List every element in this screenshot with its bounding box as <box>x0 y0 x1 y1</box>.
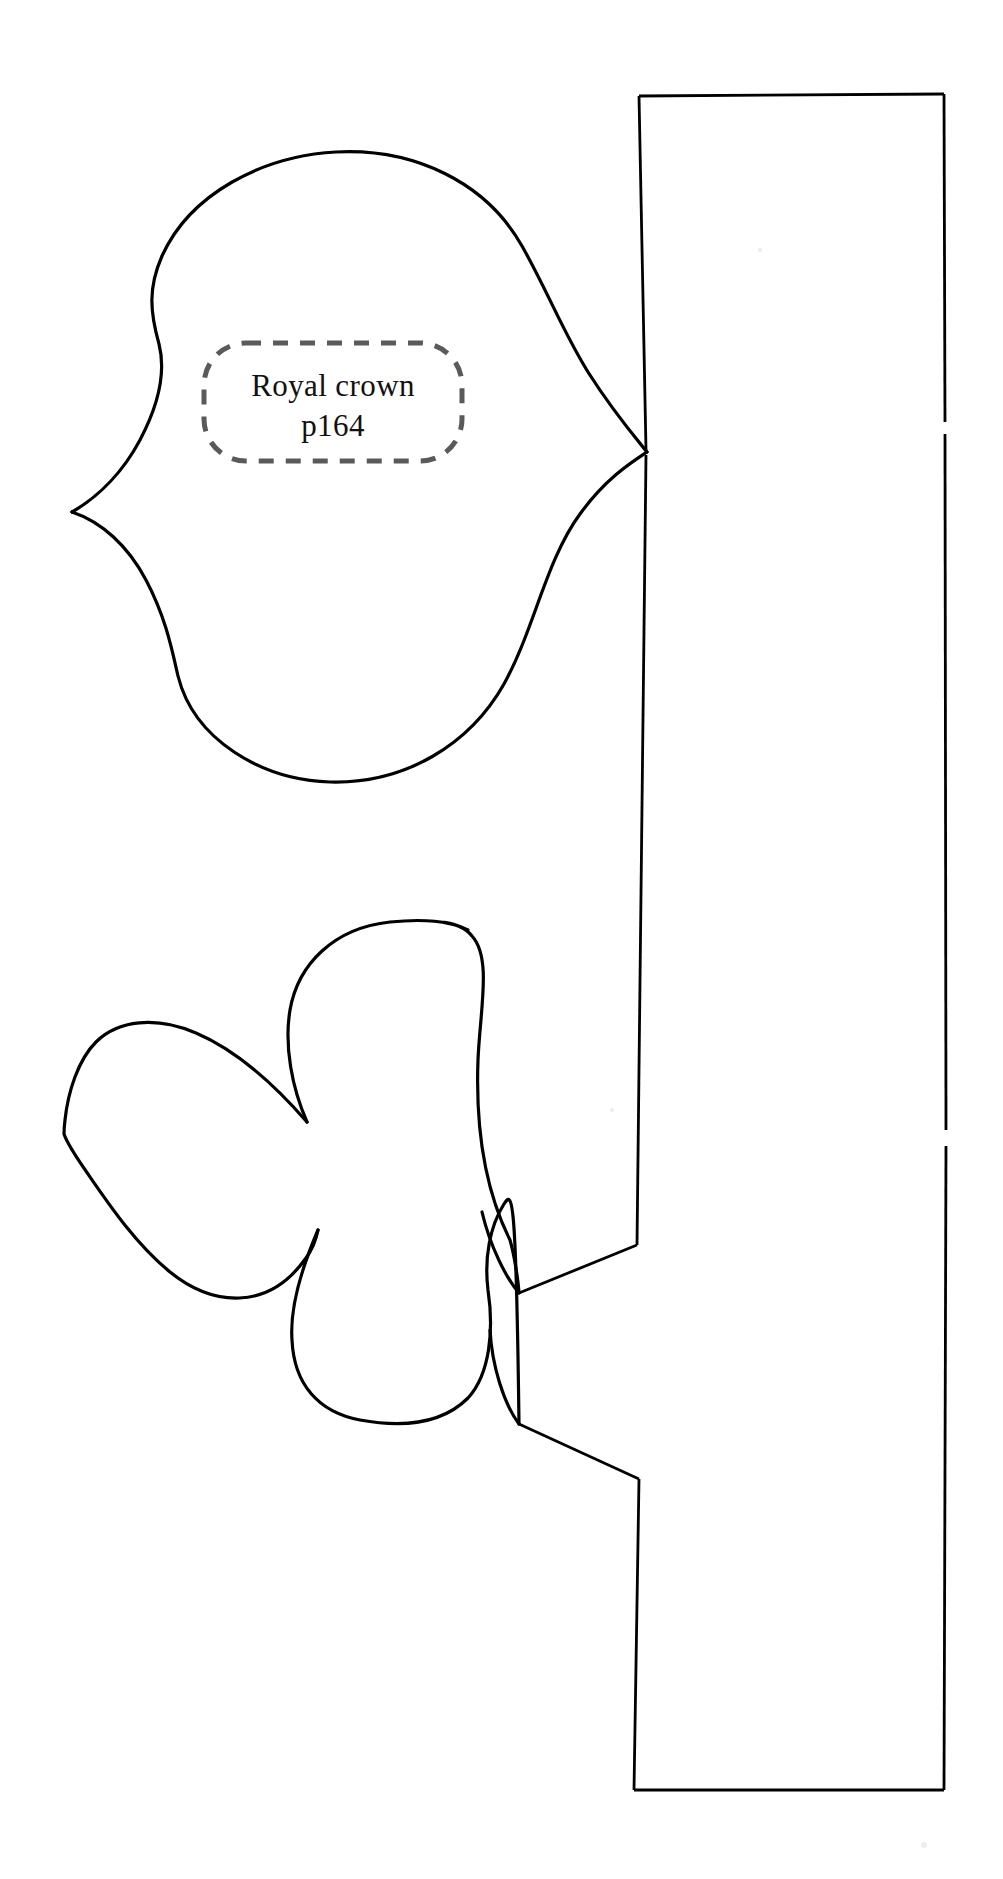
leaf-heart-lower-lobe <box>72 452 647 782</box>
pattern-sheet: Royal crown p164 <box>0 0 1003 1879</box>
strip-right-edge-middle <box>945 434 946 1130</box>
strip-left-edge-top <box>639 96 646 450</box>
paper-speck <box>758 248 762 252</box>
clover-top-lobe <box>288 921 519 1293</box>
strip-left-edge-bottom <box>634 1479 639 1790</box>
strip-notch-diagonal-lower <box>519 1424 639 1479</box>
strip-right-edge-lower <box>944 1146 946 1790</box>
clover-flower-piece <box>64 921 520 1424</box>
right-strip-piece <box>519 94 946 1790</box>
pattern-drawing: Royal crown p164 <box>0 0 1003 1879</box>
paper-speck <box>921 1842 927 1848</box>
strip-right-edge-upper <box>944 94 945 422</box>
leaf-heart-piece <box>72 149 648 782</box>
label-line-1: Royal crown <box>251 368 415 403</box>
label-callout: Royal crown p164 <box>204 343 462 461</box>
strip-left-edge-middle <box>637 455 646 1245</box>
label-line-2: p164 <box>301 408 365 443</box>
clover-bottom-lobe <box>292 1199 519 1424</box>
strip-top-edge <box>639 94 944 96</box>
clover-lower-notch-tip <box>490 1330 519 1424</box>
paper-speck <box>610 1108 614 1112</box>
strip-notch-diagonal-upper <box>519 1245 637 1293</box>
